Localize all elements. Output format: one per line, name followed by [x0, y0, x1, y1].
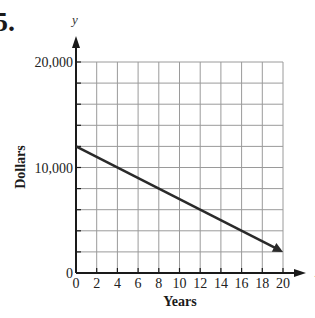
x-tick-label: 18 — [255, 276, 269, 291]
x-tick-label: 0 — [73, 276, 80, 291]
series-line — [76, 146, 278, 249]
x-tick-label: 4 — [114, 276, 121, 291]
y-axis-title: Dollars — [13, 140, 29, 194]
x-tick-label: 14 — [214, 276, 228, 291]
y-tick-label: 10,000 — [35, 161, 74, 176]
x-axis-variable: x — [314, 265, 315, 280]
x-axis-title: Years — [150, 294, 210, 310]
x-tick-label: 2 — [93, 276, 100, 291]
y-tick-label: 20,000 — [35, 55, 74, 70]
line-chart: yx02468101214161820010,00020,000 — [0, 0, 315, 318]
x-tick-label: 8 — [155, 276, 162, 291]
x-tick-label: 12 — [193, 276, 207, 291]
x-axis-arrow-icon — [294, 269, 306, 277]
axes — [72, 36, 306, 277]
y-axis-variable: y — [70, 12, 78, 27]
y-axis-arrow-icon — [72, 36, 80, 48]
x-tick-label: 10 — [173, 276, 187, 291]
grid-lines — [76, 62, 283, 273]
x-tick-label: 20 — [276, 276, 290, 291]
x-tick-label: 16 — [235, 276, 249, 291]
x-tick-label: 6 — [135, 276, 142, 291]
y-tick-label: 0 — [66, 266, 73, 281]
